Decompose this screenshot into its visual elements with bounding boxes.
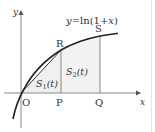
x-axis-label: x bbox=[140, 97, 145, 107]
y-axis-arrow-icon bbox=[19, 10, 24, 15]
y-axis-label: y bbox=[12, 7, 19, 17]
s1-arg: (t) bbox=[47, 78, 59, 89]
curve-label-eq: =ln(1+ bbox=[72, 15, 109, 26]
x-axis-arrow-icon bbox=[136, 91, 141, 96]
diagram-canvas: y x O P Q R S y=ln(1+x) S1(t) S2(t) bbox=[0, 0, 155, 132]
curve-label-close: ) bbox=[114, 15, 118, 26]
origin-label: O bbox=[22, 97, 30, 108]
point-r-label: R bbox=[56, 38, 64, 49]
region-s2 bbox=[61, 36, 100, 93]
curve-label: y=ln(1+x) bbox=[65, 15, 118, 26]
point-p-label: P bbox=[56, 97, 63, 108]
point-q-label: Q bbox=[95, 97, 103, 108]
s2-arg: (t) bbox=[77, 66, 89, 77]
right-edge-divider bbox=[151, 0, 152, 132]
ln-curve-diagram: y x O P Q R S y=ln(1+x) S1(t) S2(t) bbox=[0, 0, 155, 132]
